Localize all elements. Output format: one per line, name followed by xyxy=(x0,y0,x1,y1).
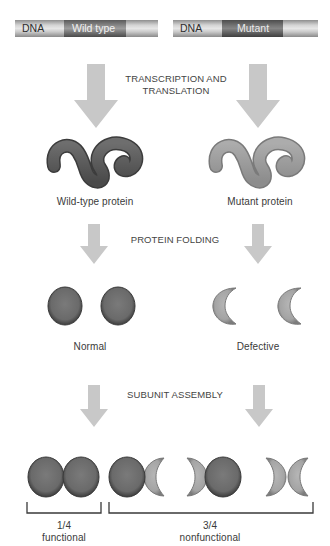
bracket-functional xyxy=(26,502,102,514)
dna-label: DNA xyxy=(180,20,202,37)
nonfunctional-outcome-label: 3/4 nonfunctional xyxy=(170,520,250,544)
normal-subunit xyxy=(47,286,83,326)
wild-type-gene-label: Wild type xyxy=(72,20,115,37)
arrow-down-icon xyxy=(245,385,273,427)
functional-outcome-label: 1/4 functional xyxy=(24,520,104,544)
dna-label: DNA xyxy=(22,20,44,37)
mutant-protein-chain xyxy=(208,136,308,188)
dna-mutant-bar: DNA Mutant xyxy=(173,20,318,37)
nonfunctional-text: nonfunctional xyxy=(170,532,250,544)
wild-type-protein-chain xyxy=(46,136,146,188)
dimer-defective-defective xyxy=(262,455,312,499)
normal-label: Normal xyxy=(50,341,130,352)
dimer-defective-normal xyxy=(183,455,243,499)
mutant-gene-label: Mutant xyxy=(237,20,269,37)
normal-subunit xyxy=(100,286,136,326)
arrow-down-icon xyxy=(80,385,108,427)
wild-type-protein-label: Wild-type protein xyxy=(40,196,150,207)
defective-label: Defective xyxy=(218,341,298,352)
dna-wild-type-bar: DNA Wild type xyxy=(15,20,158,37)
nonfunctional-fraction: 3/4 xyxy=(170,520,250,532)
step-protein-folding: PROTEIN FOLDING xyxy=(120,234,230,245)
mutant-protein-label: Mutant protein xyxy=(205,196,315,207)
dimer-normal-normal xyxy=(27,455,101,499)
step-subunit-assembly: SUBUNIT ASSEMBLY xyxy=(115,389,235,400)
step1-line1: TRANSCRIPTION AND xyxy=(110,73,242,85)
step-transcription-translation: TRANSCRIPTION AND TRANSLATION xyxy=(110,73,242,97)
bracket-nonfunctional xyxy=(108,502,314,514)
defective-subunit xyxy=(212,286,238,326)
arrow-down-icon xyxy=(244,224,272,264)
dimer-normal-defective xyxy=(108,455,168,499)
defective-subunit xyxy=(277,286,303,326)
functional-fraction: 1/4 xyxy=(24,520,104,532)
step1-line2: TRANSLATION xyxy=(110,85,242,97)
arrow-down-icon xyxy=(236,64,280,128)
arrow-down-icon xyxy=(80,224,108,264)
functional-text: functional xyxy=(24,532,104,544)
